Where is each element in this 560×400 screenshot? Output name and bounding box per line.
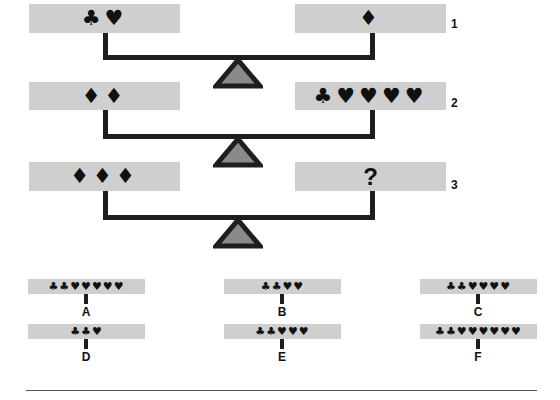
option-f-label[interactable]: F: [468, 350, 488, 364]
scale-2-right-pan: ♣♥♥♥♥: [295, 82, 446, 110]
option-d-stem: [84, 339, 88, 349]
option-c-stem: [476, 294, 480, 304]
option-e-stem: [280, 339, 284, 349]
option-b-label[interactable]: B: [272, 305, 292, 319]
scale-3-fulcrum-icon: [213, 217, 263, 249]
option-a-label[interactable]: A: [76, 305, 96, 319]
bottom-divider: [26, 390, 537, 391]
scale-1-right-pan: ♦: [295, 4, 446, 33]
scale-2-left-pan: ♦♦: [29, 82, 180, 110]
scale-1-left-pan: ♣♥: [29, 4, 180, 33]
option-d-label[interactable]: D: [76, 350, 96, 364]
scale-3-right-pan-unknown: ?: [295, 162, 446, 191]
option-b-pan[interactable]: ♣♣♥♥: [224, 279, 341, 294]
scale-2-number: 2: [451, 96, 458, 110]
option-e-pan[interactable]: ♣♣♥♥♥: [224, 324, 341, 339]
scale-1-number: 1: [451, 17, 458, 31]
scale-3-left-pan: ♦♦♦: [29, 162, 180, 191]
scale-1-fulcrum-icon: [213, 57, 263, 89]
option-f-pan[interactable]: ♣♣♥♥♥♥♥♥: [420, 324, 537, 339]
scale-3-number: 3: [451, 178, 458, 192]
scale-2-fulcrum-icon: [213, 136, 263, 168]
option-b-stem: [280, 294, 284, 304]
option-a-pan[interactable]: ♣♣♥♥♥♥♥: [28, 279, 145, 294]
option-a-stem: [84, 294, 88, 304]
option-c-label[interactable]: C: [468, 305, 488, 319]
option-d-pan[interactable]: ♣♣♥: [28, 324, 145, 339]
option-f-stem: [476, 339, 480, 349]
option-c-pan[interactable]: ♣♣♥♥♥♥: [420, 279, 537, 294]
option-e-label[interactable]: E: [272, 350, 292, 364]
